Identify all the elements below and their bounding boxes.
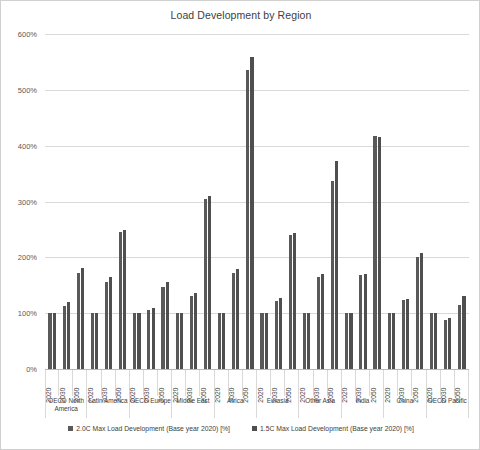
bar — [345, 313, 348, 369]
bar — [147, 310, 150, 369]
bar — [137, 313, 140, 369]
x-axis-region-group: Middle East — [172, 396, 214, 418]
x-tick-year: 2030 — [144, 370, 158, 396]
x-axis-region-label: OECD Pacific — [428, 397, 467, 405]
bar — [335, 161, 338, 369]
bar — [91, 313, 94, 369]
legend-item[interactable]: 2.0C Max Load Development (Base year 202… — [68, 425, 230, 432]
bar — [109, 277, 112, 369]
bar — [232, 273, 235, 369]
x-tick-year: 2020 — [384, 370, 398, 396]
x-axis-region-group: India — [342, 396, 384, 418]
bar — [166, 282, 169, 369]
x-tick-year: 2050 — [412, 370, 426, 396]
x-tick-year: 2050 — [370, 370, 384, 396]
x-tick-year: 2030 — [441, 370, 455, 396]
x-axis-region-label: Latin America — [89, 397, 128, 405]
bar — [317, 277, 320, 369]
x-tick-year: 2030 — [102, 370, 116, 396]
x-tick-year: 2030 — [356, 370, 370, 396]
x-axis-region-group: China — [384, 396, 426, 418]
plot-area — [45, 34, 469, 369]
y-tick-label: 0% — [26, 365, 37, 374]
bar — [373, 136, 376, 369]
bar — [260, 313, 263, 369]
x-tick-year: 2050 — [73, 370, 87, 396]
bar — [402, 300, 405, 369]
bar — [161, 287, 164, 369]
x-axis-region-label: China — [397, 397, 414, 405]
bar — [458, 305, 461, 369]
x-axis-region-label: Other Asia — [305, 397, 335, 405]
chart-container: Load Development by Region 0%100%200%300… — [0, 0, 480, 450]
x-tick-year: 2020 — [215, 370, 229, 396]
bar — [246, 70, 249, 369]
bar — [416, 257, 419, 369]
bar — [48, 313, 51, 369]
bar — [293, 233, 296, 369]
bar — [218, 313, 221, 369]
y-tick-label: 100% — [18, 309, 37, 318]
bars-layer — [45, 34, 469, 369]
x-axis-region-group: Other Asia — [299, 396, 341, 418]
y-tick-label: 300% — [18, 197, 37, 206]
x-axis-region-group: OECD Europe — [130, 396, 172, 418]
bar — [378, 137, 381, 369]
bar — [105, 282, 108, 369]
x-tick-year: 2030 — [229, 370, 243, 396]
bar — [152, 308, 155, 369]
bar — [462, 296, 465, 369]
bar — [208, 196, 211, 369]
y-tick-label: 600% — [18, 30, 37, 39]
y-tick-label: 500% — [18, 85, 37, 94]
bar — [222, 313, 225, 369]
bar — [194, 293, 197, 369]
bar — [176, 313, 179, 369]
bar — [331, 181, 334, 369]
x-tick-year: 2020 — [427, 370, 441, 396]
x-tick-year: 2050 — [200, 370, 214, 396]
bar — [359, 275, 362, 369]
x-tick-year: 2050 — [328, 370, 342, 396]
bar — [204, 199, 207, 369]
x-axis-region-label: India — [356, 397, 370, 405]
bar — [63, 306, 66, 369]
bar — [434, 313, 437, 369]
bar — [81, 268, 84, 369]
bar — [279, 298, 282, 369]
bar — [289, 235, 292, 369]
bar — [303, 313, 306, 369]
bar — [406, 299, 409, 369]
x-tick-year: 2020 — [130, 370, 144, 396]
x-axis-region-labels: OECD North AmericaLatin AmericaOECD Euro… — [45, 396, 469, 418]
bar — [77, 273, 80, 369]
x-tick-year: 2050 — [116, 370, 130, 396]
bar — [119, 232, 122, 369]
bar — [430, 313, 433, 369]
bar — [180, 313, 183, 369]
bar — [133, 313, 136, 369]
bar — [250, 57, 253, 369]
x-axis-region-label: OECD Europe — [130, 397, 171, 405]
x-axis-year-labels: 2020203020502020203020502020203020502020… — [45, 370, 469, 396]
bar — [53, 313, 56, 369]
chart-title: Load Development by Region — [1, 9, 480, 21]
x-tick-year: 2020 — [87, 370, 101, 396]
x-tick-year: 2030 — [314, 370, 328, 396]
x-tick-year: 2030 — [59, 370, 73, 396]
x-tick-year: 2030 — [398, 370, 412, 396]
legend-item[interactable]: 1.5C Max Load Development (Base year 202… — [252, 425, 414, 432]
bar — [388, 313, 391, 369]
x-tick-year: 2050 — [285, 370, 299, 396]
x-tick-year: 2050 — [243, 370, 257, 396]
x-tick-year: 2030 — [186, 370, 200, 396]
legend-swatch-icon — [252, 426, 257, 431]
bar — [392, 313, 395, 369]
bar — [275, 301, 278, 369]
x-axis-region-group: Africa — [215, 396, 257, 418]
bar — [448, 318, 451, 369]
chart-legend: 2.0C Max Load Development (Base year 202… — [1, 425, 480, 432]
x-tick-year: 2020 — [342, 370, 356, 396]
x-tick-year: 2020 — [299, 370, 313, 396]
bar — [321, 274, 324, 369]
